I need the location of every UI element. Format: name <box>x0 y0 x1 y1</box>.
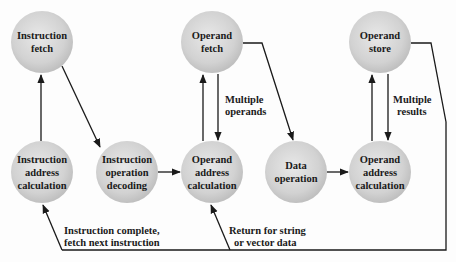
node-label: operation <box>274 173 317 184</box>
node-operand-store: Operand store <box>349 11 411 73</box>
node-label: store <box>369 43 391 54</box>
node-label: Operand <box>360 154 400 165</box>
node-label: address <box>363 167 397 178</box>
node-label: Operand <box>192 30 232 41</box>
node-label: calculation <box>18 180 67 191</box>
node-operand-address-calculation-1: Operand address calculation <box>181 141 243 203</box>
svg-text:or vector data: or vector data <box>234 237 297 248</box>
edge-loop-to-oac1 <box>211 205 230 250</box>
svg-text:Multiple: Multiple <box>225 94 264 105</box>
node-instruction-address-calculation: Instruction address calculation <box>11 141 73 203</box>
label-return-for-string: Return for string or vector data <box>229 225 307 248</box>
svg-text:fetch next instruction: fetch next instruction <box>64 237 160 248</box>
node-label: Operand <box>192 154 232 165</box>
edge-ifetch-to-iod <box>62 66 100 147</box>
edge-loop-to-iac <box>43 205 62 250</box>
label-instruction-complete: Instruction complete, fetch next instruc… <box>64 225 160 248</box>
instruction-cycle-state-diagram: Instruction fetch Operand fetch Operand … <box>0 0 456 262</box>
node-label: Data <box>285 160 307 171</box>
node-label: Operand <box>360 30 400 41</box>
node-label: operation <box>105 167 148 178</box>
svg-text:Multiple: Multiple <box>393 94 432 105</box>
label-multiple-results: Multiple results <box>393 94 432 117</box>
node-instruction-operation-decoding: Instruction operation decoding <box>96 141 158 203</box>
node-label: address <box>25 167 59 178</box>
svg-text:operands: operands <box>225 106 266 117</box>
label-multiple-operands: Multiple operands <box>225 94 266 117</box>
node-data-operation: Data operation <box>265 141 327 203</box>
node-operand-address-calculation-2: Operand address calculation <box>349 141 411 203</box>
svg-text:Return for string: Return for string <box>229 225 307 236</box>
node-label: fetch <box>31 43 53 54</box>
node-label: address <box>195 167 229 178</box>
node-label: decoding <box>107 180 148 191</box>
node-label: fetch <box>201 43 223 54</box>
node-label: Instruction <box>17 154 67 165</box>
node-operand-fetch: Operand fetch <box>181 11 243 73</box>
node-label: Instruction <box>17 30 67 41</box>
node-instruction-fetch: Instruction fetch <box>11 11 73 73</box>
svg-text:results: results <box>397 106 427 117</box>
node-label: Instruction <box>102 154 152 165</box>
edge-ofetch-to-dataop <box>243 43 293 140</box>
node-label: calculation <box>188 180 237 191</box>
node-label: calculation <box>356 180 405 191</box>
svg-text:Instruction complete,: Instruction complete, <box>64 225 160 236</box>
